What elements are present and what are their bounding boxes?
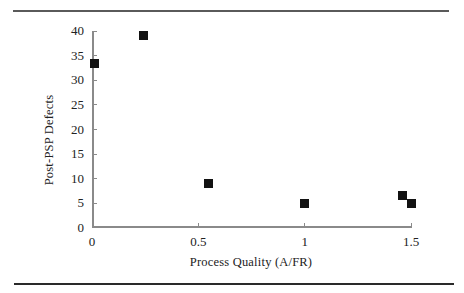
bottom-divider [14,283,454,285]
y-tick-mark [92,55,97,56]
y-tick-label: 25 [54,98,84,112]
data-point-marker [90,59,99,68]
y-tick-mark [92,178,97,179]
y-tick-label: 10 [54,172,84,186]
y-tick-label: 35 [54,49,84,63]
y-tick-label: 20 [54,123,84,137]
data-point-marker [300,199,309,208]
x-axis-line [92,226,411,228]
x-tick-mark [198,223,199,228]
x-axis-title: Process Quality (A/FR) [190,255,312,270]
plot-area: 051015202530354000.511.5 [92,31,411,228]
figure: Post-PSP Defects Process Quality (A/FR) … [0,0,464,293]
x-tick-label: 1 [301,235,308,249]
y-tick-label: 30 [54,73,84,87]
data-point-marker [407,199,416,208]
y-tick-mark [92,104,97,105]
x-tick-label: 1.5 [403,235,419,249]
y-tick-mark [92,80,97,81]
y-tick-mark [92,31,97,32]
x-tick-label: 0 [89,235,96,249]
y-tick-label: 40 [54,24,84,38]
y-tick-mark [92,154,97,155]
y-tick-label: 15 [54,147,84,161]
y-tick-mark [92,129,97,130]
data-point-marker [204,179,213,188]
y-tick-label: 0 [54,221,84,235]
y-tick-label: 5 [54,196,84,210]
x-tick-mark [411,223,412,228]
y-tick-mark [92,203,97,204]
x-tick-label: 0.5 [190,235,206,249]
top-divider [13,10,449,12]
data-point-marker [139,31,148,40]
x-tick-mark [304,223,305,228]
